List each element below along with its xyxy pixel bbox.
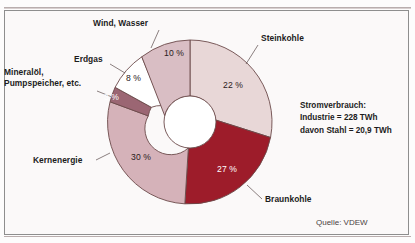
- consumption-info-block: Stromverbrauch: Industrie = 228 TWh davo…: [300, 100, 392, 137]
- value-erdgas: 8 %: [126, 73, 141, 83]
- figure-container: Steinkohle Braunkohle Kernenergie Minera…: [0, 0, 415, 243]
- label-wind-wasser: Wind, Wasser: [93, 18, 148, 29]
- value-braunkohle: 27 %: [217, 164, 237, 174]
- label-mineraloel: Mineralöl, Pumpspeicher, etc.: [4, 67, 96, 90]
- value-kernenergie: 30 %: [131, 152, 151, 162]
- donut-hole: [164, 96, 216, 148]
- source-note: Quelle: VDEW: [316, 218, 368, 227]
- info-line-1: Stromverbrauch:: [300, 100, 392, 112]
- value-mineraloel: 3 %: [104, 92, 119, 102]
- leader-line-steinkohle: [246, 45, 258, 64]
- info-line-3: davon Stahl = 20,9 TWh: [300, 125, 392, 137]
- label-kernenergie: Kernenergie: [33, 155, 82, 166]
- label-mineraloel-line1: Mineralöl,: [4, 67, 44, 77]
- info-line-2: Industrie = 228 TWh: [300, 112, 392, 124]
- leader-line-erdgas: [110, 64, 125, 73]
- leader-line-kernenergie: [96, 153, 110, 160]
- label-mineraloel-line2: Pumpspeicher, etc.: [4, 78, 81, 88]
- leader-line-wind-wasser: [151, 30, 159, 48]
- label-braunkohle: Braunkohle: [265, 194, 312, 205]
- label-steinkohle: Steinkohle: [261, 33, 304, 44]
- value-wind-wasser: 10 %: [164, 48, 184, 58]
- bottom-rule: [4, 236, 411, 237]
- label-erdgas: Erdgas: [74, 54, 103, 65]
- leader-line-braunkohle: [247, 185, 262, 199]
- value-steinkohle: 22 %: [223, 80, 243, 90]
